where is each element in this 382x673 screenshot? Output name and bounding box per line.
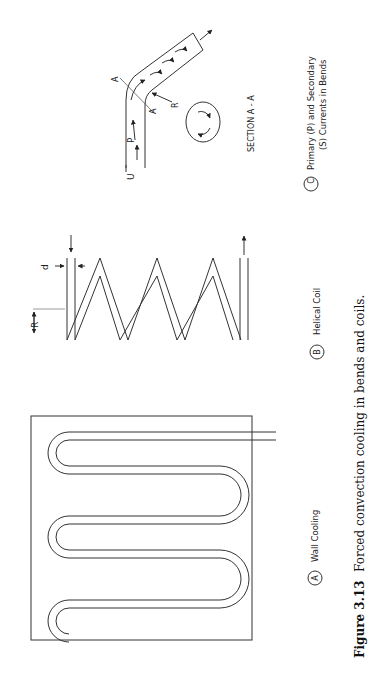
primary-p-label: P: [126, 137, 136, 143]
serpentine-pipe: [48, 432, 276, 642]
secondary-flow-arrow-icon: [198, 111, 210, 118]
badge-a-letter: A: [311, 575, 320, 581]
figure-caption-text: Forced convection cooling in bends and c…: [353, 295, 367, 572]
section-marker-bottom: A: [149, 108, 158, 114]
panel-a-caption: A Wall Cooling: [308, 510, 322, 585]
figure-number: Figure 3.13: [353, 580, 367, 658]
figure-canvas: d R U P A A R SECTION A - A: [0, 0, 382, 673]
wall-plate: [31, 416, 252, 640]
panel-c-title-line1: Primary (P) and Secondary: [306, 56, 316, 170]
figure-caption: Figure 3.13 Forced convection cooling in…: [353, 295, 367, 658]
panel-a-wall-cooling: [31, 416, 276, 642]
coil-d-label: d: [40, 264, 50, 270]
panel-c-bend: U P A A R SECTION A - A: [111, 30, 256, 180]
panel-b-title: Helical Coil: [312, 288, 322, 335]
coil-r-label: R: [30, 322, 40, 328]
velocity-u-label: U: [126, 173, 136, 180]
cross-section-circle: [186, 102, 220, 142]
bend-r-label: R: [171, 102, 180, 108]
panel-b-helical-coil: d R: [30, 235, 248, 340]
section-title: SECTION A - A: [247, 95, 256, 152]
panel-b-caption: B Helical Coil: [310, 288, 324, 359]
badge-b-letter: B: [313, 349, 322, 355]
panel-a-title: Wall Cooling: [310, 510, 320, 562]
panel-c-title-line2: (S) Currents in Bends: [318, 59, 328, 150]
secondary-flow-arrow-icon: [198, 128, 210, 135]
badge-c-letter: C: [307, 178, 316, 184]
panel-c-caption: C Primary (P) and Secondary (S) Currents…: [304, 56, 328, 191]
figure: d R U P A A R SECTION A - A: [0, 0, 382, 673]
section-marker-top: A: [111, 76, 120, 82]
